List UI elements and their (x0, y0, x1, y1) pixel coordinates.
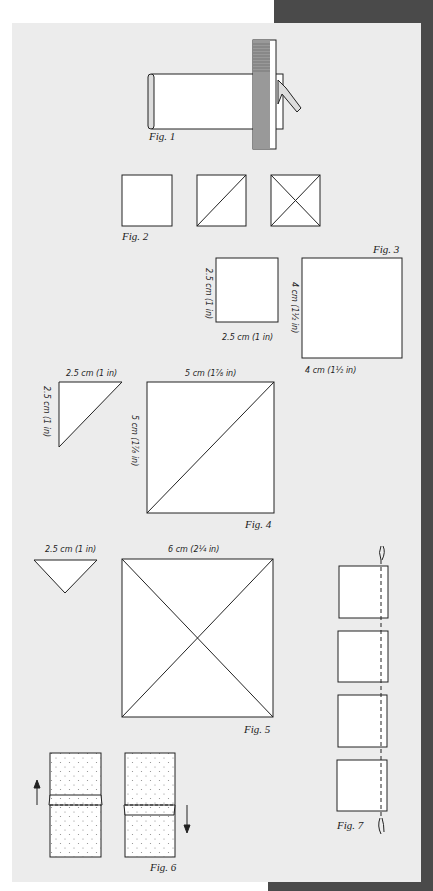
fold-flap (124, 805, 175, 815)
svg-text:4 cm (1½ in): 4 cm (1½ in) (290, 282, 299, 333)
svg-text:2.5 cm (1 in): 2.5 cm (1 in) (42, 386, 51, 437)
svg-text:2.5 cm (1 in): 2.5 cm (1 in) (204, 268, 213, 319)
fabric-fold (148, 74, 154, 129)
thread-top (380, 546, 385, 560)
fig5-caption: Fig. 5 (243, 723, 271, 735)
thread-bottom (379, 818, 384, 834)
svg-text:2.5 cm (1 in): 2.5 cm (1 in) (222, 333, 273, 342)
illustration-page: Fig. 1 Fig. 2 Fig. 3 2.5 cm (1 in) 2.5 c… (12, 23, 421, 882)
fig4-caption: Fig. 4 (244, 518, 272, 530)
fig3: Fig. 3 2.5 cm (1 in) 2.5 cm (1 in) 4 cm … (204, 243, 402, 375)
svg-text:6 cm (2¼ in): 6 cm (2¼ in) (168, 545, 219, 554)
fig7: Fig. 7 (336, 546, 388, 834)
svg-text:2.5 cm (1 in): 2.5 cm (1 in) (66, 369, 117, 378)
fig2: Fig. 2 (121, 175, 320, 242)
fold-flap (49, 795, 102, 805)
fig4: 2.5 cm (1 in) 2.5 cm (1 in) 5 cm (1⅞ in)… (42, 369, 274, 530)
fig5: 2.5 cm (1 in) 6 cm (2¼ in) Fig. 5 (34, 545, 273, 735)
arrow-up-icon (34, 780, 40, 805)
svg-text:5 cm (1⅞ in): 5 cm (1⅞ in) (185, 369, 236, 378)
fig6-caption: Fig. 6 (149, 861, 177, 873)
fig7-caption: Fig. 7 (336, 819, 364, 831)
triangle-down (34, 560, 97, 593)
arrow-down-icon (184, 805, 190, 833)
svg-text:4 cm (1½ in): 4 cm (1½ in) (305, 366, 356, 375)
svg-text:2.5 cm (1 in): 2.5 cm (1 in) (45, 545, 96, 554)
fig3-caption: Fig. 3 (372, 243, 400, 255)
fig1-caption: Fig. 1 (148, 130, 175, 142)
fig2-caption: Fig. 2 (121, 230, 149, 242)
fig1: Fig. 1 (148, 40, 301, 149)
dark-band-top (274, 0, 433, 23)
triangle-right (59, 382, 122, 447)
diagram-canvas: Fig. 1 Fig. 2 Fig. 3 2.5 cm (1 in) 2.5 c… (12, 23, 421, 882)
fig6: Fig. 6 (34, 753, 190, 873)
dark-band-bottom (268, 882, 433, 891)
dark-band-right (421, 0, 433, 891)
svg-text:5 cm (1⅞ in): 5 cm (1⅞ in) (130, 415, 139, 466)
